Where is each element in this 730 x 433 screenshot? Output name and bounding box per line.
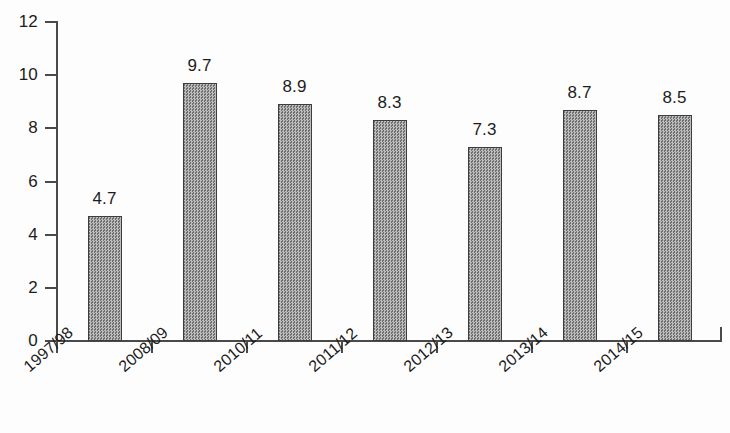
- bar-value-label-1997-98: 4.7: [57, 190, 152, 207]
- y-tick-2: [45, 287, 57, 289]
- y-axis-label-4: 4: [8, 226, 38, 243]
- bar-2010-11: [278, 104, 312, 341]
- bar-chart: 12 10 8 6 4 2 0 4.79.78.98.37.38.78.5 19…: [0, 0, 730, 433]
- x-axis-label-2008-09: 2008/09: [116, 324, 171, 375]
- y-axis-label-2: 2: [8, 279, 38, 296]
- x-axis-label-2013-14: 2013/14: [496, 324, 551, 375]
- y-axis-label-12: 12: [8, 13, 38, 30]
- bar-2012-13: [468, 147, 502, 341]
- y-tick-8: [45, 127, 57, 129]
- bar-value-label-2014-15: 8.5: [627, 89, 722, 106]
- y-axis-label-0: 0: [8, 332, 38, 349]
- bar-2014-15: [658, 115, 692, 341]
- bar-1997-98: [88, 216, 122, 341]
- bar-2011-12: [373, 120, 407, 341]
- bar-value-label-2012-13: 7.3: [437, 121, 532, 138]
- y-tick-6: [45, 181, 57, 183]
- x-axis-label-2010-11: 2010/11: [211, 325, 265, 375]
- bar-value-label-2011-12: 8.3: [342, 94, 437, 111]
- y-axis-label-10: 10: [8, 66, 38, 83]
- bar-value-label-2013-14: 8.7: [532, 84, 627, 101]
- bar-value-label-2010-11: 8.9: [247, 78, 342, 95]
- x-axis-right-cap: [720, 327, 722, 341]
- y-tick-4: [45, 234, 57, 236]
- bar-2013-14: [563, 110, 597, 341]
- x-axis-label-2014-15: 2014/15: [591, 324, 646, 375]
- x-axis-label-2012-13: 2012/13: [401, 324, 456, 375]
- bar-value-label-2008-09: 9.7: [152, 57, 247, 74]
- x-axis-label-2011-12: 2011/12: [306, 325, 360, 375]
- y-axis-label-6: 6: [8, 173, 38, 190]
- y-tick-10: [45, 74, 57, 76]
- bar-2008-09: [183, 83, 217, 341]
- y-axis-label-8: 8: [8, 119, 38, 136]
- y-tick-12: [45, 21, 57, 23]
